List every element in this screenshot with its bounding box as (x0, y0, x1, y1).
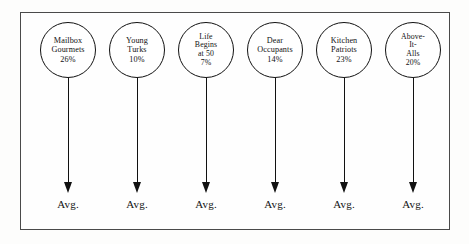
arrow-shaft-1 (68, 78, 69, 184)
arrow-target-label-4: Avg. (241, 198, 309, 210)
diagram-column-3: Life Begins at 50 7% Avg. (172, 0, 240, 244)
figure-canvas: Mailbox Gourmets 26% Avg. Young Turks 10… (0, 0, 469, 244)
segment-label-line: Young (126, 36, 148, 46)
segment-value: 23% (336, 55, 351, 65)
segment-circle-5: Kitchen Patriots 23% (316, 22, 372, 78)
arrow-shaft-2 (137, 78, 138, 184)
segment-value: 10% (129, 55, 144, 65)
arrow-shaft-5 (344, 78, 345, 184)
segment-value: 7% (201, 59, 212, 68)
arrow-shaft-3 (206, 78, 207, 184)
segment-label-line: Mailbox (54, 36, 82, 46)
segment-value: 20% (406, 59, 421, 68)
arrow-target-label-5: Avg. (310, 198, 378, 210)
arrow-head-4 (271, 182, 279, 193)
diagram-column-5: Kitchen Patriots 23% Avg. (310, 0, 378, 244)
arrow-target-label-3: Avg. (172, 198, 240, 210)
segment-circle-1: Mailbox Gourmets 26% (40, 22, 96, 78)
segment-circle-4: Dear Occupants 14% (247, 22, 303, 78)
arrow-target-label-1: Avg. (34, 198, 102, 210)
arrow-target-label-6: Avg. (379, 198, 447, 210)
segment-circle-2: Young Turks 10% (109, 22, 165, 78)
arrow-head-1 (64, 182, 72, 193)
arrow-head-5 (340, 182, 348, 193)
segment-label-line: Occupants (257, 45, 292, 55)
arrow-head-6 (409, 182, 417, 193)
diagram-column-1: Mailbox Gourmets 26% Avg. (34, 0, 102, 244)
segment-value: 26% (60, 55, 75, 65)
segment-label-line: Patriots (331, 45, 357, 55)
arrow-target-label-2: Avg. (103, 198, 171, 210)
arrow-head-2 (133, 182, 141, 193)
segment-label-line: Gourmets (51, 45, 84, 55)
segment-circle-6: Above- It- Alls 20% (385, 22, 441, 78)
segment-circle-3: Life Begins at 50 7% (178, 22, 234, 78)
segment-label-line: Dear (267, 36, 283, 46)
diagram-column-2: Young Turks 10% Avg. (103, 0, 171, 244)
segment-label-line: Turks (127, 45, 146, 55)
segment-value: 14% (267, 55, 282, 65)
arrow-shaft-4 (275, 78, 276, 184)
segment-label-line: Kitchen (331, 36, 358, 46)
diagram-column-4: Dear Occupants 14% Avg. (241, 0, 309, 244)
arrow-shaft-6 (413, 78, 414, 184)
arrow-head-3 (202, 182, 210, 193)
diagram-column-6: Above- It- Alls 20% Avg. (379, 0, 447, 244)
